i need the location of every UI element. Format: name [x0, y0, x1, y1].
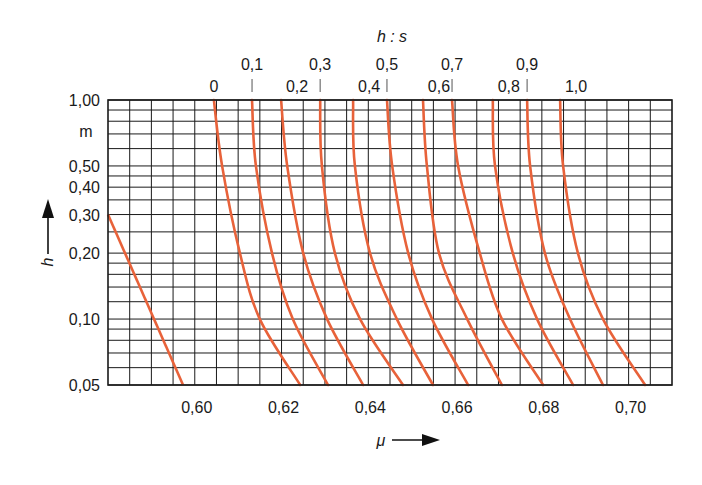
y-tick-label: 0,30: [69, 207, 100, 224]
curve-hs-0-1: [252, 100, 328, 385]
x-tick-label: 0,70: [615, 399, 646, 416]
y-axis-title: h: [39, 199, 56, 266]
curve-hs-0-9: [527, 100, 603, 385]
curve-hs-1-0: [560, 100, 645, 385]
top-label-row2: 0,6: [428, 78, 450, 95]
top-label-row2: 0,4: [358, 78, 380, 95]
y-tick-label: 0,10: [69, 311, 100, 328]
top-label-row1: 0,7: [441, 56, 463, 73]
x-tick-label: 0,60: [181, 399, 212, 416]
curve-hs-0-4: [353, 100, 433, 385]
x-tick-label: 0,68: [528, 399, 559, 416]
x-axis-label: μ: [376, 432, 386, 449]
x-axis-title: μ: [376, 432, 440, 449]
top-label-row1: 0,1: [241, 56, 263, 73]
top-label-row1: 0,5: [376, 56, 398, 73]
y-tick-label: 0,40: [69, 179, 100, 196]
up-arrow-icon: [42, 199, 54, 254]
top-axis-labels: 00,10,20,30,40,50,60,70,80,91,0: [209, 56, 587, 95]
curve-hs-0-6: [423, 100, 502, 385]
x-axis-tick-labels: 0,600,620,640,660,680,70: [181, 399, 646, 416]
curve-hs-0: [214, 100, 300, 385]
x-tick-label: 0,64: [355, 399, 386, 416]
right-arrow-icon: [392, 434, 440, 446]
y-unit-label: m: [79, 123, 92, 140]
y-tick-label: 1,00: [69, 92, 100, 109]
top-label-row1: 0,3: [309, 56, 331, 73]
top-label-row2: 0,2: [286, 78, 308, 95]
top-label-row2: 0,8: [498, 78, 520, 95]
y-axis-tick-labels: 1,00m0,500,400,300,200,100,05: [69, 92, 100, 394]
top-label-row2: 0: [209, 78, 218, 95]
limit-line: [108, 215, 183, 385]
chart: 1,00m0,500,400,300,200,100,05 0,600,620,…: [0, 0, 702, 485]
y-tick-label: 0,20: [69, 245, 100, 262]
y-axis-label: h: [39, 257, 56, 266]
y-tick-label: 0,50: [69, 158, 100, 175]
x-tick-label: 0,62: [268, 399, 299, 416]
top-axis-title: h : s: [377, 28, 407, 45]
curve-hs-0-2: [281, 100, 363, 385]
y-tick-label: 0,05: [69, 377, 100, 394]
x-tick-label: 0,66: [442, 399, 473, 416]
data-curves: [108, 100, 645, 385]
top-label-row1: 0,9: [516, 56, 538, 73]
top-label-row2: 1,0: [565, 78, 587, 95]
